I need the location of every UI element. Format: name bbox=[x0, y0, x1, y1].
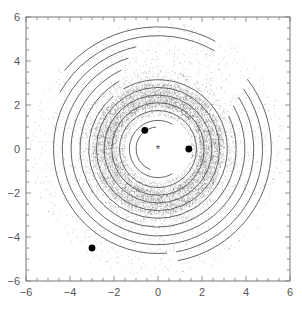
center-asterisk-icon: * bbox=[156, 143, 161, 155]
x-tick-label: −4 bbox=[64, 286, 77, 298]
body-marker bbox=[185, 146, 192, 153]
chart: −6−4−20246 −6−4−20246 * bbox=[0, 0, 302, 309]
x-tick-label: 0 bbox=[155, 286, 161, 298]
y-tick-label: −4 bbox=[7, 231, 20, 243]
x-tick-label: 2 bbox=[199, 286, 205, 298]
x-axis-tick-labels: −6−4−20246 bbox=[20, 286, 293, 298]
y-tick-label: 6 bbox=[14, 11, 20, 23]
y-tick-label: 4 bbox=[14, 55, 20, 67]
x-tick-label: 6 bbox=[287, 286, 293, 298]
y-axis-tick-labels: −6−4−20246 bbox=[7, 11, 20, 287]
body-marker bbox=[89, 245, 96, 252]
y-tick-label: 2 bbox=[14, 99, 20, 111]
body-marker bbox=[141, 127, 148, 134]
y-tick-label: 0 bbox=[14, 143, 20, 155]
x-tick-label: −6 bbox=[20, 286, 33, 298]
x-tick-label: 4 bbox=[243, 286, 249, 298]
y-tick-label: −2 bbox=[7, 187, 20, 199]
x-tick-label: −2 bbox=[108, 286, 121, 298]
y-tick-label: −6 bbox=[7, 275, 20, 287]
